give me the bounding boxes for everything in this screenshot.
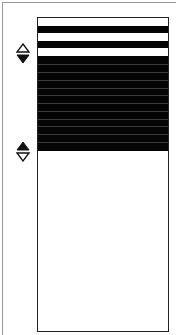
selected-row[interactable]	[38, 56, 168, 64]
selected-row[interactable]	[38, 95, 168, 103]
selected-row[interactable]	[38, 119, 168, 126]
selected-row[interactable]	[38, 64, 168, 72]
page-border-top	[2, 2, 176, 3]
list-row[interactable]	[38, 48, 168, 56]
selected-row[interactable]	[38, 126, 168, 134]
selection-start-down-arrow-icon[interactable]	[16, 54, 30, 64]
list-row[interactable]	[38, 26, 168, 33]
selected-row[interactable]	[38, 103, 168, 111]
selection-end-up-arrow-icon[interactable]	[16, 141, 30, 151]
selected-row[interactable]	[38, 80, 168, 88]
selected-row[interactable]	[38, 142, 168, 151]
page-border-left	[2, 2, 3, 335]
list-row[interactable]	[38, 18, 168, 26]
selected-row[interactable]	[38, 134, 168, 142]
list-row[interactable]	[38, 41, 168, 48]
selected-row[interactable]	[38, 72, 168, 80]
empty-list-area[interactable]	[38, 151, 168, 331]
list-box[interactable]	[37, 17, 169, 332]
selected-row[interactable]	[38, 111, 168, 119]
selected-row[interactable]	[38, 88, 168, 95]
selection-start-up-arrow-icon[interactable]	[16, 43, 30, 53]
list-row[interactable]	[38, 33, 168, 41]
selection-end-down-arrow-icon[interactable]	[16, 152, 30, 162]
